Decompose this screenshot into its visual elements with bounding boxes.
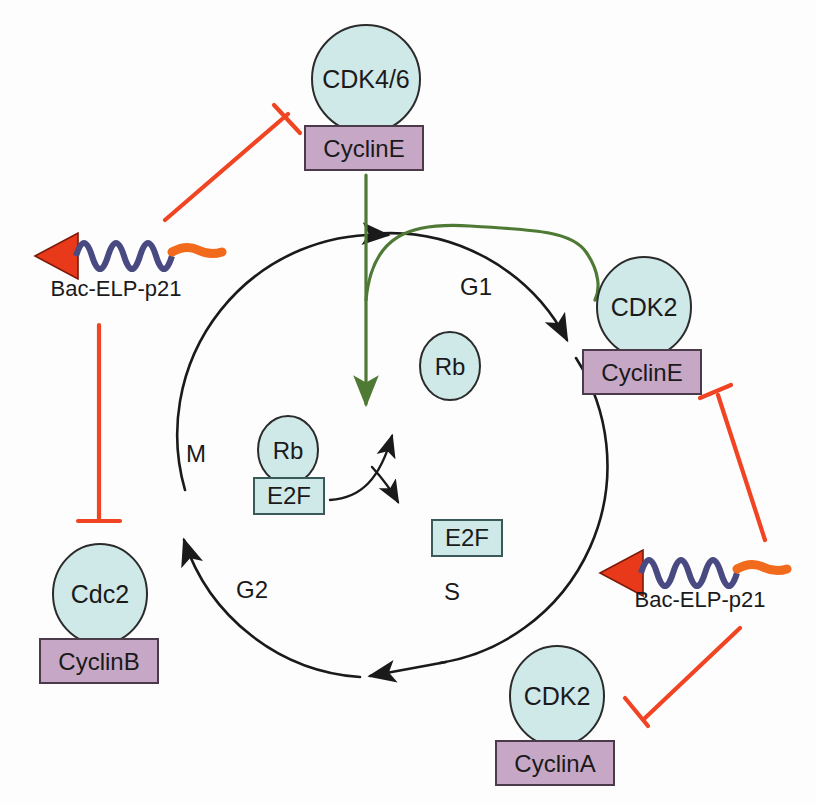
inhibition-line-cdk2-cycline (718, 395, 765, 540)
phase-label-s: S (444, 578, 460, 605)
dissociation-arrow-up (330, 436, 392, 500)
p21-squiggle-icon-right (737, 564, 787, 570)
p21-squiggle-icon (172, 247, 222, 253)
node-e2f-free[interactable]: E2F (432, 520, 502, 556)
construct-bac-elp-p21-left: Bac-ELP-p21 (35, 233, 222, 301)
inhibition-line-cdk46 (165, 114, 288, 220)
inhibition-bar-cdk2-cycline (700, 385, 731, 398)
phase-label-m: M (186, 440, 206, 467)
cyclin-label-cycline-2: CyclinE (601, 359, 682, 386)
cyclin-label-cyclinb: CyclinB (58, 648, 139, 675)
cycle-arc-g2 (184, 540, 360, 677)
e2f-label-bound: E2F (267, 482, 311, 509)
inhibition-lines (78, 105, 765, 726)
cell-cycle-diagram: G1 S G2 M (0, 0, 816, 805)
elp-wave-icon (76, 243, 172, 269)
kinase-label-cdc2: Cdc2 (71, 580, 129, 608)
node-rb-e2f-complex[interactable]: Rb E2F (254, 416, 324, 514)
cyclin-label-cycline-1: CyclinE (323, 135, 404, 162)
node-rb-free[interactable]: Rb (420, 332, 480, 400)
bac-arrowhead-icon (35, 233, 78, 279)
phase-label-g1: G1 (460, 273, 492, 300)
inhibition-line-cdk2-cyclina (645, 628, 740, 718)
complex-cdk46-cycline[interactable]: CDK4/6 CyclinE (305, 25, 423, 170)
kinase-label-cdk2-a: CDK2 (524, 682, 591, 710)
dissociation-arrow-down (372, 467, 398, 502)
complex-cdc2-cyclinb[interactable]: Cdc2 CyclinB (40, 544, 158, 683)
construct-bac-elp-p21-right: Bac-ELP-p21 (600, 550, 787, 612)
kinase-label-cdk46: CDK4/6 (322, 65, 410, 93)
cyclin-label-cyclina: CyclinA (514, 750, 595, 777)
rb-label-bound: Rb (273, 437, 304, 464)
dissociation-arrows (330, 436, 398, 502)
rb-label-free: Rb (435, 353, 466, 380)
complex-cdk2-cyclina[interactable]: CDK2 CyclinA (496, 646, 614, 785)
cycle-arc-s (440, 358, 607, 663)
phase-label-g2: G2 (236, 576, 268, 603)
complex-cdk2-cycline[interactable]: CDK2 CyclinE (583, 257, 701, 394)
cell-cycle-ring (177, 233, 607, 677)
construct-label-right: Bac-ELP-p21 (635, 587, 766, 612)
construct-label-left: Bac-ELP-p21 (51, 276, 182, 301)
figure-canvas: G1 S G2 M (0, 0, 816, 805)
e2f-label-free: E2F (445, 524, 489, 551)
inhibition-bar-cdk2-cyclina (625, 698, 648, 726)
kinase-label-cdk2-e: CDK2 (611, 293, 678, 321)
elp-wave-icon-right (641, 560, 737, 586)
cycle-arc-bottom (370, 662, 446, 676)
inhibition-bar-cdk46 (274, 105, 300, 133)
